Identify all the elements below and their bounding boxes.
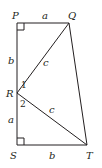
vertex-label-P: P [11, 10, 19, 21]
vertex-label-S: S [10, 150, 17, 161]
segment-label-ST: b [49, 150, 55, 161]
right-angle-marker-S [17, 138, 24, 145]
trapezoid-diagram: P Q R S T a b c a c b 1 2 [0, 0, 102, 168]
vertex-label-R: R [5, 88, 14, 99]
angle-label-1: 1 [21, 80, 27, 90]
vertex-label-Q: Q [68, 10, 76, 21]
right-angle-marker-P [17, 23, 24, 30]
segment-RT [17, 93, 87, 145]
segment-label-PQ: a [42, 10, 48, 21]
segment-label-PR: b [8, 55, 14, 66]
segment-label-RQ: c [43, 57, 49, 68]
vertex-label-T: T [86, 150, 94, 161]
segment-QT [69, 23, 87, 145]
segment-label-RT: c [49, 104, 55, 115]
segment-label-RS: a [8, 114, 14, 125]
angle-label-2: 2 [20, 99, 26, 109]
